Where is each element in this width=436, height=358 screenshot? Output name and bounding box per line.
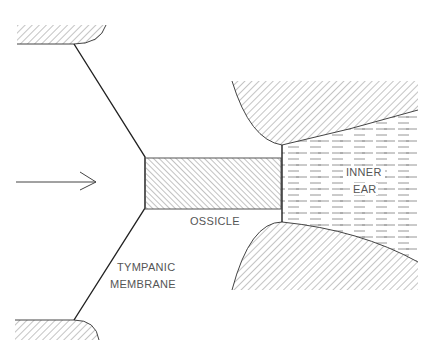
tympanic-label-line1: TYMPANIC (117, 261, 175, 273)
sound-arrow-icon (16, 172, 96, 190)
inner-ear-label-line1: INNER (346, 166, 382, 178)
inner-ear-label-line2: EAR (353, 183, 377, 195)
outer-ear-bone-bottom (15, 320, 99, 340)
outer-ear-bone-top (17, 25, 106, 44)
tympanic-label-line2: MEMBRANE (110, 278, 176, 290)
ossicle (145, 158, 281, 209)
ear-diagram: OSSICLE INNER EAR TYMPANIC MEMBRANE (0, 0, 436, 358)
ossicle-label: OSSICLE (190, 215, 240, 227)
